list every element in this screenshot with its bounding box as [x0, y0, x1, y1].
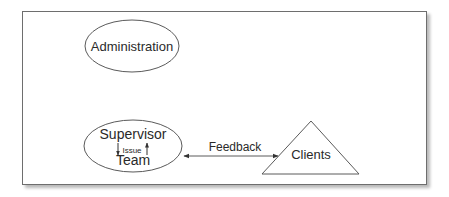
diagram-canvas: Administration Supervisor Team Issue Fee… [0, 0, 449, 197]
feedback-edge: Feedback [184, 140, 278, 156]
clients-node: Clients [262, 121, 359, 174]
administration-node: Administration [85, 20, 179, 72]
issue-label: Issue [122, 146, 142, 155]
supervisor-team-node: Supervisor Team Issue [84, 120, 182, 172]
feedback-label: Feedback [209, 140, 263, 154]
clients-label: Clients [291, 147, 331, 162]
supervisor-label: Supervisor [100, 126, 167, 142]
administration-label: Administration [91, 39, 173, 54]
